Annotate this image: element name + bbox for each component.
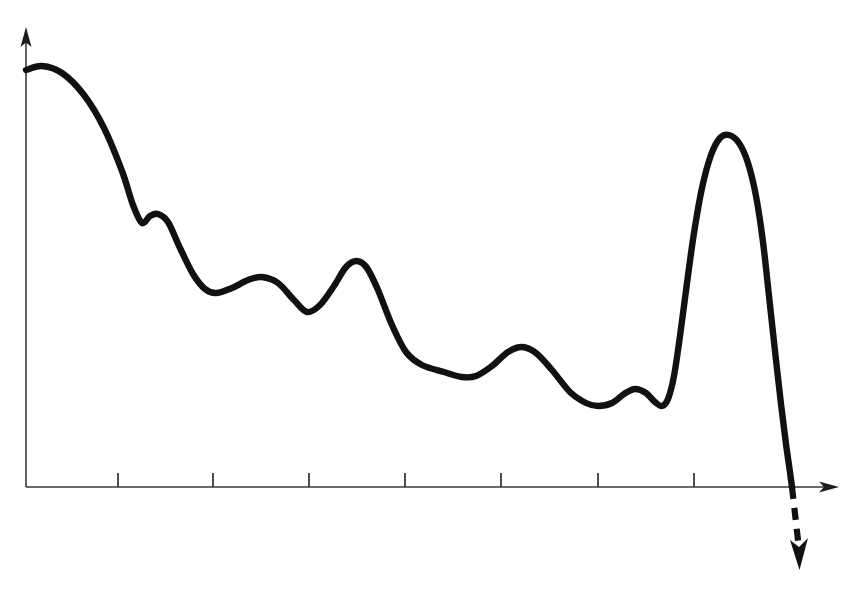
horizontal-axis [26, 482, 839, 493]
data-curve [26, 66, 792, 487]
dashed-continuation [790, 487, 808, 570]
dashed-projection-line [792, 487, 799, 549]
plot-canvas [0, 0, 856, 596]
dashed-projection-arrow-icon [790, 538, 808, 570]
vertical-axis [21, 27, 32, 487]
figure-root [0, 0, 856, 596]
tick-mark-group [118, 473, 694, 487]
